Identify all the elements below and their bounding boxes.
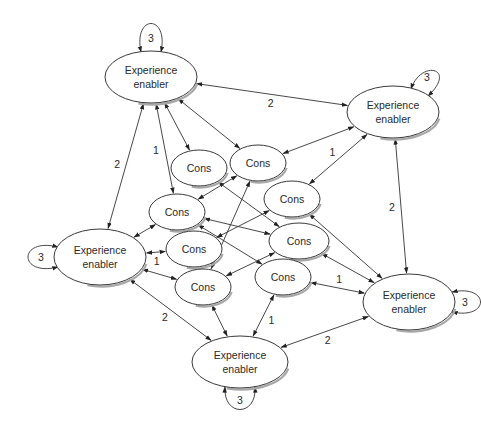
self-loop-weight-label: 3 xyxy=(237,394,243,406)
cons-node-c6: Cons xyxy=(269,223,330,261)
edge-weight-label: 2 xyxy=(114,158,120,170)
node-label: Cons xyxy=(246,157,271,169)
edge-weight-label: 1 xyxy=(336,273,342,285)
edge-weight-label: 2 xyxy=(389,201,395,213)
edge-weight-label: 2 xyxy=(325,334,331,346)
node-label: Cons xyxy=(191,281,216,293)
node-label: Experience xyxy=(367,99,420,111)
node-label: enabler xyxy=(133,78,169,90)
node-label: Experience xyxy=(383,289,436,301)
experience-enabler-node-e4: Experienceenabler xyxy=(363,274,455,332)
cons-node-c8: Cons xyxy=(255,259,312,297)
node-label: enabler xyxy=(391,303,427,315)
node-label: enabler xyxy=(82,258,118,270)
edge-weight-label: 1 xyxy=(269,314,275,326)
cons-node-c3: Cons xyxy=(149,194,206,232)
node-label: enabler xyxy=(222,363,258,375)
edge-weight-label: 2 xyxy=(268,97,274,109)
nodes-layer: ExperienceenablerExperienceenablerExperi… xyxy=(54,51,455,390)
experience-network-diagram: ExperienceenablerExperienceenablerExperi… xyxy=(0,0,481,432)
experience-enabler-node-e3: Experienceenabler xyxy=(54,229,146,287)
experience-enabler-node-e2: Experienceenabler xyxy=(347,86,439,140)
cons-node-c2: Cons xyxy=(230,145,287,183)
cons-node-c1: Cons xyxy=(171,150,228,188)
self-loop-weight-label: 3 xyxy=(38,251,44,263)
cons-node-c4: Cons xyxy=(264,181,321,219)
experience-enabler-node-e1: Experienceenabler xyxy=(105,51,197,105)
node-label: Cons xyxy=(182,243,207,255)
node-label: Cons xyxy=(165,206,190,218)
node-label: Cons xyxy=(280,193,305,205)
self-loop-weight-label: 3 xyxy=(148,32,154,44)
edge-e5-c7 xyxy=(212,305,227,336)
edge-c5-c4 xyxy=(217,211,269,238)
edge-e2-e4 xyxy=(395,139,406,273)
edge-weight-label: 1 xyxy=(153,144,159,156)
edge-e2-c2 xyxy=(283,127,354,154)
node-label: Cons xyxy=(287,235,312,247)
edge-weight-label: 2 xyxy=(162,311,168,323)
edge-e3-c5 xyxy=(147,251,166,253)
edge-weight-label: 1 xyxy=(154,255,160,267)
edge-e1-c1 xyxy=(165,103,190,150)
edge-e1-c2 xyxy=(178,99,239,148)
edge-e3-c3 xyxy=(134,225,155,237)
node-label: Cons xyxy=(271,271,296,283)
edge-c3-c6 xyxy=(204,218,270,234)
edge-e4-c6 xyxy=(322,254,374,283)
edge-weight-label: 1 xyxy=(329,146,335,158)
node-label: Experience xyxy=(125,64,178,76)
cons-node-c7: Cons xyxy=(175,269,232,307)
node-label: Experience xyxy=(74,244,127,256)
experience-enabler-node-e5: Experienceenabler xyxy=(192,336,288,390)
node-label: Experience xyxy=(214,349,267,361)
node-label: enabler xyxy=(375,113,411,125)
edge-e2-c4 xyxy=(310,134,368,184)
edge-e3-c7 xyxy=(142,269,176,279)
self-loop-weight-label: 3 xyxy=(424,71,430,83)
cons-node-c5: Cons xyxy=(166,231,223,269)
self-loop-weight-label: 3 xyxy=(462,296,468,308)
node-label: Cons xyxy=(187,162,212,174)
